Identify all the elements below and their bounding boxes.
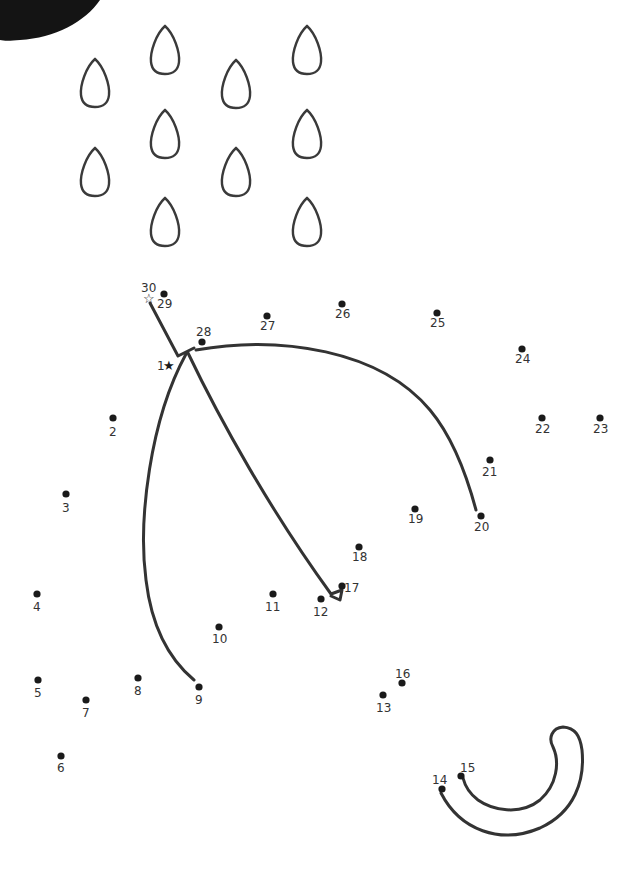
dot-point bbox=[477, 512, 484, 519]
dot-number-label: 21 bbox=[482, 465, 497, 479]
dot-number-label: 19 bbox=[408, 512, 423, 526]
dot-number-label: 12 bbox=[313, 605, 328, 619]
raindrop-icon bbox=[222, 60, 250, 108]
dot-point bbox=[82, 696, 89, 703]
dot-number-label: 14 bbox=[432, 773, 447, 787]
raindrop-icon bbox=[151, 198, 179, 246]
dot-number-label: 17 bbox=[344, 581, 359, 595]
dot-number-label: 22 bbox=[535, 422, 550, 436]
dot-number-label: 4 bbox=[33, 600, 41, 614]
dot-number-label: 25 bbox=[430, 316, 445, 330]
raindrop-icon bbox=[293, 198, 321, 246]
umbrella-handle-hook bbox=[441, 727, 583, 835]
raindrop-icon bbox=[293, 110, 321, 158]
dot-number-label: 10 bbox=[212, 632, 227, 646]
dot-point bbox=[215, 623, 222, 630]
end-star-outline-icon: ☆ bbox=[143, 291, 155, 306]
dot-point bbox=[596, 414, 603, 421]
dot-point bbox=[109, 414, 116, 421]
dot-number-label: 5 bbox=[34, 686, 42, 700]
dot-number-label: 8 bbox=[134, 684, 142, 698]
dot-number-label: 11 bbox=[265, 600, 280, 614]
dot-number-label: 6 bbox=[57, 761, 65, 775]
dot-point bbox=[62, 490, 69, 497]
dot-number-label: 18 bbox=[352, 550, 367, 564]
dot-number-label: 16 bbox=[395, 667, 410, 681]
dot-point bbox=[198, 338, 205, 345]
dot-to-dot-worksheet: 1234567891011121314151617181920212223242… bbox=[0, 0, 638, 879]
dot-point bbox=[486, 456, 493, 463]
dot-number-label: 9 bbox=[195, 693, 203, 707]
dot-point bbox=[269, 590, 276, 597]
numbered-dots: 1234567891011121314151617181920212223242… bbox=[33, 281, 608, 793]
dot-point bbox=[134, 674, 141, 681]
dot-point bbox=[33, 590, 40, 597]
dot-number-label: 15 bbox=[460, 761, 475, 775]
umbrella-right-rib bbox=[196, 345, 476, 510]
raindrop-icon bbox=[151, 110, 179, 158]
raindrop-icon bbox=[293, 26, 321, 74]
dot-number-label: 28 bbox=[196, 325, 211, 339]
raindrop-icon bbox=[222, 148, 250, 196]
dot-point bbox=[317, 595, 324, 602]
raindrop-icon bbox=[81, 59, 109, 107]
umbrella-center-shaft bbox=[188, 353, 342, 600]
umbrella-left-rib bbox=[144, 354, 194, 680]
dot-number-label: 24 bbox=[515, 352, 530, 366]
corner-black-blob bbox=[0, 0, 100, 41]
dot-number-label: 7 bbox=[82, 706, 90, 720]
dot-point bbox=[538, 414, 545, 421]
dot-point bbox=[379, 691, 386, 698]
start-star-icon: ★ bbox=[163, 358, 175, 373]
dot-number-label: 26 bbox=[335, 307, 350, 321]
dot-number-label: 29 bbox=[157, 297, 172, 311]
dot-number-label: 27 bbox=[260, 319, 275, 333]
dot-number-label: 3 bbox=[62, 501, 70, 515]
umbrella-outline bbox=[144, 303, 583, 835]
raindrops-group bbox=[81, 26, 321, 246]
dot-number-label: 2 bbox=[109, 425, 117, 439]
dot-point bbox=[57, 752, 64, 759]
dot-point bbox=[34, 676, 41, 683]
raindrop-icon bbox=[151, 26, 179, 74]
dot-point bbox=[195, 683, 202, 690]
raindrop-icon bbox=[81, 148, 109, 196]
dot-number-label: 23 bbox=[593, 422, 608, 436]
dot-number-label: 20 bbox=[474, 520, 489, 534]
dot-number-label: 13 bbox=[376, 701, 391, 715]
